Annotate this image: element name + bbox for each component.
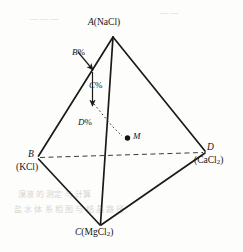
edge-B-D-dashed bbox=[40, 153, 203, 158]
vertex-label-D-letter: D bbox=[207, 142, 214, 152]
vertex-label-A-formula: (NaCl) bbox=[94, 17, 120, 27]
vertex-label-B: B bbox=[28, 150, 34, 160]
point-m-label: M bbox=[133, 132, 141, 141]
vertex-label-B-formula: (KCl) bbox=[16, 163, 38, 173]
annotation-b-percent-unit: % bbox=[78, 47, 86, 57]
edge-C-D bbox=[101, 153, 205, 225]
edge-A-D bbox=[113, 37, 205, 151]
vertex-label-D: D bbox=[207, 143, 214, 153]
edge-B-C bbox=[39, 159, 101, 225]
edge-A-C bbox=[101, 37, 114, 224]
vertex-label-C-close: ) bbox=[110, 227, 113, 237]
vertex-label-C: C(MgCl2) bbox=[75, 228, 113, 239]
vertex-label-D-close: ) bbox=[220, 155, 223, 165]
annotation-b-percent: B% bbox=[72, 48, 85, 57]
tetrahedron-figure: 溴液 的 测定 与 计算 盐 水 体 系 相 图 与 结 晶 路 径 — — —… bbox=[0, 0, 243, 252]
annotation-c-percent-unit: % bbox=[95, 80, 103, 90]
point-m-marker bbox=[125, 135, 130, 140]
annotation-c-percent: C% bbox=[89, 81, 103, 90]
tetrahedron-drawing bbox=[0, 0, 243, 252]
vertex-label-C-formula: (MgCl bbox=[81, 227, 106, 237]
vertex-label-D-formula: (CaCl bbox=[194, 155, 217, 165]
annotation-d-percent-unit: % bbox=[85, 117, 93, 127]
annotation-d-percent: D% bbox=[78, 118, 92, 127]
point-m-letter: M bbox=[133, 131, 141, 141]
vertex-label-D-formula-group: (CaCl2) bbox=[194, 156, 223, 167]
vertex-label-A: A(NaCl) bbox=[88, 18, 120, 28]
vertex-label-B-letter: B bbox=[28, 149, 34, 159]
